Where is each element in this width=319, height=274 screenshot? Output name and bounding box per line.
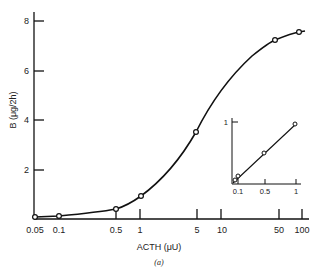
y-tick-label: 8 xyxy=(24,16,29,26)
data-point xyxy=(57,214,62,219)
x-tick-label: 50 xyxy=(274,225,284,235)
inset-data-point xyxy=(262,151,266,155)
chart: 8 6 4 2 0.05 0.1 0.5 1 5 10 50 100 ACTH … xyxy=(0,0,319,274)
y-tick-label: 4 xyxy=(24,115,29,125)
x-tick-label: 0.05 xyxy=(26,225,44,235)
y-tick-labels: 8 6 4 2 xyxy=(24,16,29,175)
data-point xyxy=(273,38,278,43)
inset-x-tick-label: 0.1 xyxy=(233,187,243,196)
data-point xyxy=(139,194,144,199)
data-point xyxy=(297,30,302,35)
y-tick-label: 2 xyxy=(24,165,29,175)
x-tick-label: 1 xyxy=(137,225,142,235)
inset-data-point xyxy=(233,178,237,182)
inset-data-point xyxy=(293,122,297,126)
x-tick-labels: 0.05 0.1 0.5 1 5 10 50 100 xyxy=(26,225,309,235)
data-point xyxy=(194,130,199,135)
y-axis-title: B (μg/2h) xyxy=(8,91,18,128)
data-point xyxy=(33,215,38,220)
inset-x-tick-label: 0.5 xyxy=(260,187,270,196)
x-tick-label: 10 xyxy=(217,225,227,235)
x-tick-label: 5 xyxy=(194,225,199,235)
inset-data-point xyxy=(236,174,240,178)
x-tick-label: 0.1 xyxy=(53,225,66,235)
inset-x-tick-label: 1 xyxy=(294,187,298,196)
y-tick-label: 6 xyxy=(24,66,29,76)
x-tick-label: 0.5 xyxy=(110,225,123,235)
x-axis-title: ACTH (μU) xyxy=(137,242,182,252)
data-point xyxy=(114,207,119,212)
x-tick-label: 100 xyxy=(294,225,309,235)
figure-caption: (a) xyxy=(154,258,164,267)
inset-y-tick-label: 1 xyxy=(224,118,228,127)
inset-chart: 1 0.1 0.5 1 xyxy=(224,118,301,196)
